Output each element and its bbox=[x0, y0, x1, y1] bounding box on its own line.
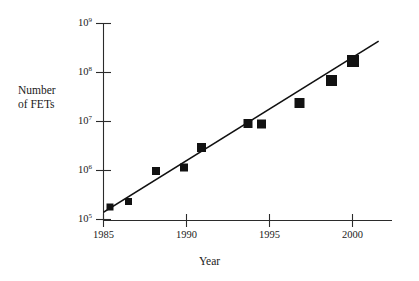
x-tick-label-1995: 1995 bbox=[245, 230, 294, 241]
data-point bbox=[125, 198, 132, 205]
x-tick-label-1985: 1985 bbox=[79, 230, 128, 241]
y-axis-title-line2: of FETs bbox=[18, 97, 56, 111]
x-tick-label-2000: 2000 bbox=[328, 230, 377, 241]
x-axis-title: Year bbox=[0, 254, 419, 268]
trend-line bbox=[104, 42, 378, 213]
figure-log-plot-number-of-fets: 109 108 107 106 105 1985 1990 1995 2000 … bbox=[0, 0, 419, 281]
data-point bbox=[197, 143, 206, 152]
y-tick-label-1e7: 107 bbox=[58, 116, 92, 127]
data-point bbox=[244, 119, 253, 128]
y-tick-label-1e6: 106 bbox=[58, 165, 92, 176]
data-point bbox=[152, 167, 160, 175]
data-point bbox=[257, 120, 266, 129]
data-point bbox=[347, 55, 359, 67]
y-tick-label-1e9: 109 bbox=[58, 18, 92, 29]
y-tick-label-1e8: 108 bbox=[58, 67, 92, 78]
data-point bbox=[180, 164, 188, 172]
data-point bbox=[326, 75, 337, 86]
data-point bbox=[295, 98, 305, 108]
y-axis-title-line1: Number bbox=[18, 83, 56, 97]
y-tick-label-1e5: 105 bbox=[58, 214, 92, 225]
data-point bbox=[107, 204, 114, 211]
y-axis-title: Number of FETs bbox=[18, 83, 56, 112]
x-tick-label-1990: 1990 bbox=[162, 230, 211, 241]
